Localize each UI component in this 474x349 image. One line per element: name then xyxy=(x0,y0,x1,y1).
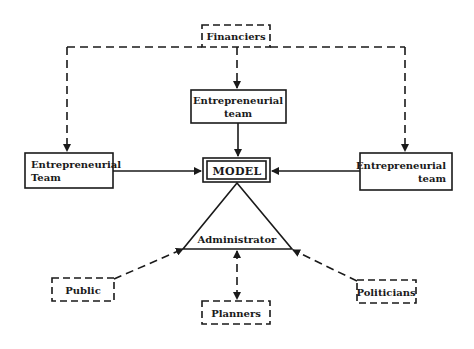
model-label: MODEL xyxy=(213,165,262,178)
center-team-line1: Entrepreneurial xyxy=(193,95,283,106)
right-team-line2: team xyxy=(418,173,446,184)
node-politicians[interactable]: Politicians xyxy=(356,280,416,303)
administrator-label: Administrator xyxy=(197,234,277,245)
node-right-team[interactable]: Entrepreneurial team xyxy=(356,153,452,190)
diagram-canvas: Financiers Entrepreneurial team Entrepre… xyxy=(0,0,474,349)
edge-politicians-administrator xyxy=(293,250,357,281)
node-administrator[interactable]: Administrator xyxy=(183,183,292,249)
right-team-line1: Entrepreneurial xyxy=(356,160,446,171)
node-public[interactable]: Public xyxy=(52,278,114,301)
node-model[interactable]: MODEL xyxy=(203,158,270,182)
financiers-label: Financiers xyxy=(206,31,265,42)
edge-public-administrator xyxy=(114,249,183,279)
planners-label: Planners xyxy=(211,308,261,319)
node-financiers[interactable]: Financiers xyxy=(202,25,270,47)
left-team-line2: Team xyxy=(31,172,61,183)
node-planners[interactable]: Planners xyxy=(202,301,270,324)
left-team-line1: Entrepreneurial xyxy=(31,159,121,170)
center-team-line2: team xyxy=(224,108,252,119)
node-center-team[interactable]: Entrepreneurial team xyxy=(191,90,286,123)
politicians-label: Politicians xyxy=(356,287,416,298)
node-left-team[interactable]: Entrepreneurial Team xyxy=(25,153,121,188)
public-label: Public xyxy=(65,285,100,296)
